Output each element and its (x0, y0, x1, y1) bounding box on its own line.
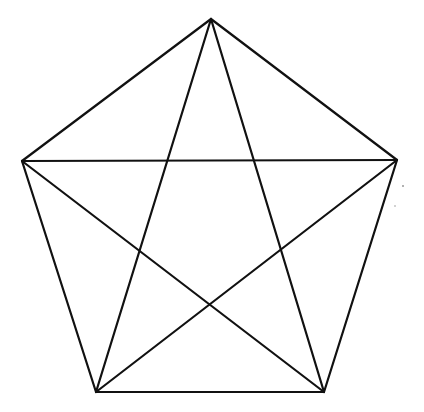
pentagon-diagram (0, 0, 424, 412)
pentagon-side-top-right (211, 19, 397, 160)
stray-speck (394, 205, 396, 207)
diagonal-top-bottom-left (96, 19, 211, 392)
diagonal-right-bottom-left (96, 160, 397, 392)
diagonal-left-bottom-right (22, 161, 324, 392)
stray-speck (402, 185, 404, 187)
edge-group (22, 19, 397, 392)
pentagon-side-bottom-left-left (22, 161, 96, 392)
pentagon-side-left-top (22, 19, 211, 161)
diagonal-top-bottom-right (211, 19, 324, 392)
pentagon-side-right-bottom-right (324, 160, 397, 392)
pentagon-with-diagonals (0, 0, 424, 412)
diagonal-left-right (22, 160, 397, 161)
